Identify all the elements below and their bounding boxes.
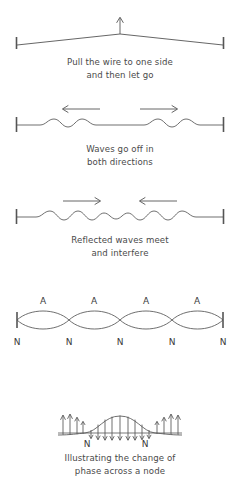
standing-wave-loop-upper (69, 311, 120, 320)
caption-line-1: Reflected waves meet (0, 234, 240, 247)
node-label: N (142, 439, 149, 449)
node-label: N (169, 337, 176, 347)
travelling-wave-right (120, 119, 223, 127)
caption-waves-go-off: Waves go off in both directions (0, 143, 240, 169)
caption-line-1: Illustrating the change of (0, 452, 240, 465)
figure-standing-wave: A A A A N N N N N (0, 292, 240, 352)
velocity-arrow-down (89, 416, 151, 440)
standing-wave-loop-lower (17, 320, 69, 329)
panel-standing-wave: A A A A N N N N N (0, 292, 240, 352)
caption-line-1: Pull the wire to one side (0, 56, 240, 69)
interfering-wave (17, 211, 223, 220)
caption-phase-change: Illustrating the change of phase across … (0, 452, 240, 478)
antinode-label: A (91, 296, 98, 306)
panel-reflected-waves-meet: Reflected waves meet and interfere (0, 192, 240, 260)
node-label: N (220, 337, 227, 347)
caption-line-1: Waves go off in (0, 143, 240, 156)
antinode-label: A (194, 296, 201, 306)
wave-direction-arrow-left (62, 106, 100, 113)
caption-line-2: and interfere (0, 247, 240, 260)
node-label: N (66, 337, 73, 347)
velocity-arrow-up (61, 414, 85, 435)
standing-wave-loop-lower (172, 320, 223, 329)
caption-reflected-waves-meet: Reflected waves meet and interfere (0, 234, 240, 260)
figure-pull-the-wire (0, 12, 240, 52)
standing-wave-loop-upper (172, 311, 223, 320)
displaced-wire (17, 34, 223, 45)
node-label: N (14, 337, 21, 347)
caption-line-2: and then let go (0, 69, 240, 82)
antinode-label: A (143, 296, 150, 306)
figure-reflected-waves-meet (0, 192, 240, 230)
standing-wave-loop-lower (120, 320, 172, 329)
caption-line-2: phase across a node (0, 465, 240, 478)
panel-pull-the-wire: Pull the wire to one side and then let g… (0, 12, 240, 82)
velocity-arrow-up (155, 414, 180, 435)
figure-waves-go-off (0, 100, 240, 138)
standing-wave-loop-upper (120, 311, 172, 320)
panel-phase-change: N N Illustrating the change of phase acr… (0, 404, 240, 478)
caption-line-2: both directions (0, 156, 240, 169)
caption-pull-the-wire: Pull the wire to one side and then let g… (0, 56, 240, 82)
panel-waves-go-off: Waves go off in both directions (0, 100, 240, 169)
wave-direction-arrow-left (139, 198, 177, 205)
standing-wave-loop-lower (69, 320, 120, 329)
figure-phase-change: N N (0, 404, 240, 449)
node-label: N (117, 337, 124, 347)
standing-wave-loop-upper (17, 311, 69, 320)
travelling-wave-left (17, 119, 120, 127)
antinode-label: A (40, 296, 47, 306)
wave-direction-arrow-right (140, 106, 178, 113)
node-label: N (84, 439, 91, 449)
wave-direction-arrow-right (63, 198, 101, 205)
